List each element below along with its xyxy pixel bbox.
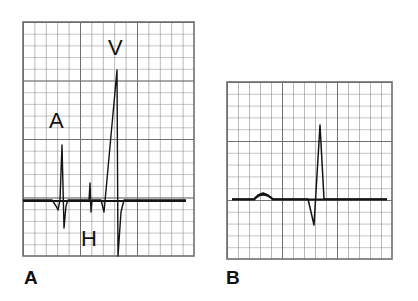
- figure-canvas: [0, 0, 418, 301]
- panel-b-label: B: [226, 268, 240, 287]
- ventricular-deflection-label: V: [108, 37, 123, 59]
- his-deflection-label: H: [81, 228, 97, 250]
- atrial-deflection-label: A: [49, 110, 64, 132]
- panel-a-label: A: [24, 268, 38, 287]
- panel-b-grid: [227, 82, 392, 259]
